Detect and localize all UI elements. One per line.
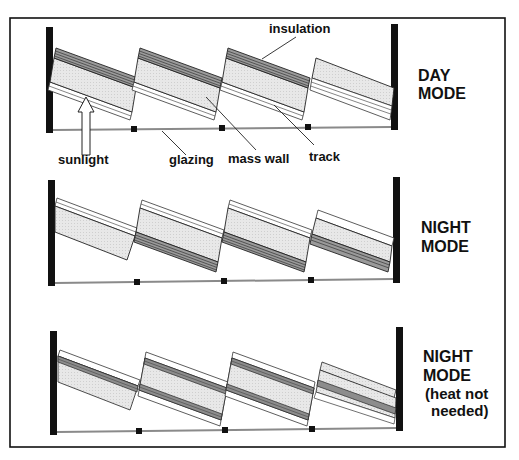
label-insulation: insulation: [269, 21, 330, 36]
right-post: [396, 327, 403, 431]
insulation-leader: [262, 37, 296, 59]
louver-slat: [55, 198, 137, 260]
louver-slat: [138, 352, 228, 426]
mode-subtitle-line1: (heat not: [425, 385, 488, 402]
mode-title-line2: MODE: [421, 238, 469, 255]
mode-title-line2: MODE: [418, 85, 466, 102]
louver-slat: [310, 58, 394, 120]
glazing-clip: [136, 428, 142, 434]
mode-title-line1: NIGHT: [423, 348, 473, 365]
label-glazing: glazing: [169, 152, 214, 167]
mode-subtitle-line2: needed): [431, 402, 489, 419]
panel-night-mode: NIGHT MODE: [48, 177, 471, 286]
glazing-clip: [131, 126, 137, 132]
louver-slat: [314, 362, 396, 424]
glazing-clip: [134, 279, 140, 285]
left-post: [50, 331, 57, 435]
panel-night-mode-heat-not-needed: NIGHT MODE (heat not needed): [50, 327, 489, 435]
louver-slat: [310, 210, 394, 272]
left-post: [48, 180, 55, 286]
mode-title-line1: NIGHT: [421, 219, 471, 236]
panel-day-mode: insulation sunlight glazing mass wall tr…: [46, 21, 466, 167]
label-mass-wall: mass wall: [228, 151, 289, 166]
louver-slat: [58, 350, 140, 410]
glazing-clip: [221, 278, 227, 284]
glazing-clip: [305, 124, 311, 130]
glazing-clip: [309, 426, 315, 432]
right-post: [391, 24, 398, 130]
right-post: [393, 177, 400, 283]
louver-slat: [134, 200, 224, 272]
glazing-clip: [222, 427, 228, 433]
label-sunlight: sunlight: [58, 152, 109, 167]
label-track: track: [309, 149, 341, 164]
louver-slat: [222, 200, 312, 272]
glazing-clip: [219, 125, 225, 131]
glazing-clip: [308, 277, 314, 283]
mass-wall-leader: [206, 97, 256, 150]
louver-slat: [225, 352, 315, 426]
louver-slat: [220, 48, 310, 120]
mode-title-line2: MODE: [423, 367, 471, 384]
louver-slat: [132, 48, 222, 120]
mode-title-line1: DAY: [418, 67, 451, 84]
louver-wall-modes-diagram: insulation sunlight glazing mass wall tr…: [0, 0, 519, 460]
